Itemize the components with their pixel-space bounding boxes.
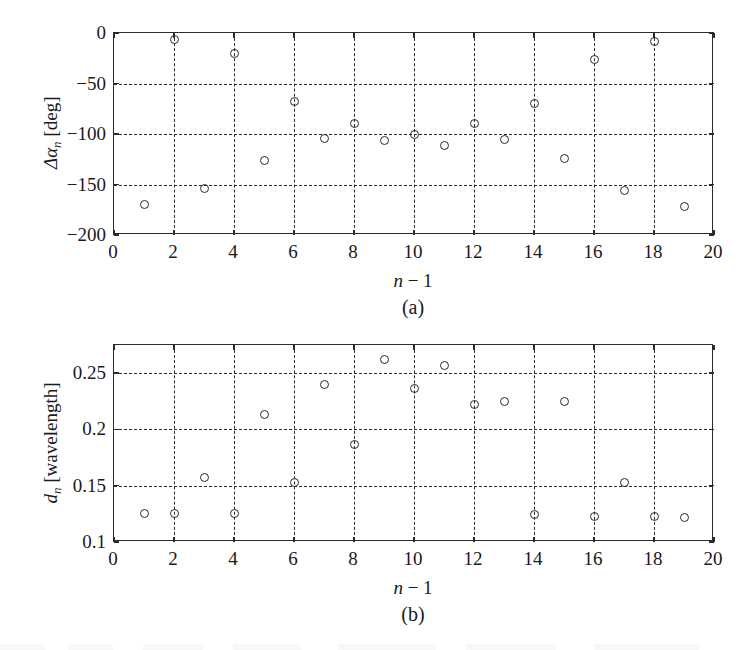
data-point-marker [290,478,299,487]
gridline-vertical [174,33,175,233]
gridline-horizontal [114,429,712,430]
data-point-marker [170,509,179,518]
axis-tick-x [413,345,414,350]
axis-tick-y [709,32,714,33]
axis-tick-y [709,429,714,430]
axis-tick-y [709,83,714,84]
gridline-vertical [654,345,655,540]
data-point-marker [590,55,599,64]
axis-tick-x [593,33,594,38]
data-point-marker [260,410,269,419]
x-tick-label: 0 [108,549,118,568]
axis-tick-x [353,537,354,542]
x-tick-label: 6 [288,549,298,568]
data-point-marker [440,141,449,150]
data-point-marker [140,509,149,518]
axis-tick-x [233,537,234,542]
x-tick-label: 12 [464,242,483,261]
data-point-marker [560,397,569,406]
axis-tick-x [533,537,534,542]
gridline-vertical [534,33,535,233]
gridline-vertical [654,33,655,233]
x-axis-label-b: n − 1 [393,577,432,599]
data-point-marker [200,184,209,193]
x-tick-label: 12 [464,549,483,568]
axis-tick-y [114,133,119,134]
axis-tick-x [413,230,414,235]
axis-tick-x [653,230,654,235]
data-point-marker [620,186,629,195]
axis-tick-y [709,133,714,134]
data-point-marker [650,37,659,46]
data-point-marker [140,200,149,209]
gridline-vertical [594,345,595,540]
data-point-marker [350,119,359,128]
axis-tick-x [293,537,294,542]
axis-tick-y [709,541,714,542]
x-axis-label-a: n − 1 [393,270,432,292]
axis-tick-x [593,230,594,235]
axis-tick-x [533,230,534,235]
data-point-marker [290,97,299,106]
axis-tick-x [293,33,294,38]
data-point-marker [560,154,569,163]
x-tick-label: 2 [168,549,178,568]
data-point-marker [590,512,599,521]
x-tick-label: 16 [584,242,603,261]
data-point-marker [200,473,209,482]
axis-tick-x [173,537,174,542]
x-tick-label: 14 [524,549,543,568]
axis-tick-y [709,485,714,486]
x-tick-label: 10 [404,549,423,568]
page-bottom-text-smudge [0,644,752,650]
axis-tick-x [533,345,534,350]
y-tick-label: 0 [97,23,107,42]
plot-area-b [113,344,713,541]
y-tick-label: 0.15 [73,475,106,494]
x-tick-label: 6 [288,242,298,261]
data-point-marker [230,509,239,518]
x-tick-label: 0 [108,242,118,261]
y-tick-label: −50 [76,73,106,92]
x-tick-label: 2 [168,242,178,261]
data-point-marker [440,361,449,370]
gridline-horizontal [114,373,712,374]
axis-tick-y [709,184,714,185]
axis-tick-y [114,372,119,373]
axis-tick-x [653,345,654,350]
data-point-marker [530,510,539,519]
axis-tick-x [593,537,594,542]
axis-tick-x [113,33,114,38]
x-tick-label: 4 [228,242,238,261]
axis-tick-x [473,230,474,235]
panel-label-b: (b) [401,603,424,626]
axis-tick-x [473,345,474,350]
data-point-marker [620,478,629,487]
y-tick-label: −200 [67,225,106,244]
axis-tick-x [233,230,234,235]
panel-a: Δαn [deg] 02468101214161820 0−50−100−150… [0,0,752,325]
axis-tick-y [114,429,119,430]
axis-tick-y [114,541,119,542]
gridline-vertical [354,33,355,233]
data-point-marker [320,380,329,389]
gridline-vertical [234,33,235,233]
axis-tick-x [593,345,594,350]
axis-tick-x [293,345,294,350]
x-tick-label: 8 [348,242,358,261]
axis-tick-y [709,372,714,373]
axis-tick-x [293,230,294,235]
axis-tick-x [173,345,174,350]
gridline-horizontal [114,84,712,85]
panel-label-a: (a) [402,296,424,319]
axis-tick-x [173,230,174,235]
axis-tick-y [114,184,119,185]
data-point-marker [320,134,329,143]
gridline-vertical [414,345,415,540]
axis-tick-x [233,345,234,350]
data-point-marker [410,130,419,139]
y-tick-label: 0.25 [73,363,106,382]
axis-tick-x [233,33,234,38]
axis-tick-x [713,345,714,350]
data-point-marker [470,119,479,128]
